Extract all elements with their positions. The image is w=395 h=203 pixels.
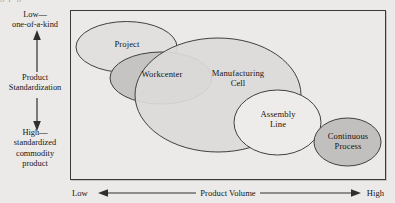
label-workcenter: Workcenter [126,69,198,79]
x-axis: Low High Product Volume [70,182,386,203]
y-axis-low-label: Low— one-of-a-kind [0,10,70,31]
x-axis-low-label: Low [70,188,90,198]
label-project: Project [97,39,157,49]
cropped-caption-text: g p g [0,0,22,2]
label-assembly-line: Assembly Line [249,109,307,129]
y-axis-title: Product Standardization [0,73,70,94]
label-continuous-process: Continuous Process [316,131,380,151]
y-axis-high-label: High— standardized commodity product [0,128,70,169]
y-axis: Low— one-of-a-kind Product Standardizati… [0,10,70,180]
plot-frame [70,10,386,180]
label-manufacturing-cell: Manufacturing Cell [200,68,276,88]
x-axis-high-label: High [365,188,386,198]
cropped-caption-remnant: g p g [0,0,395,4]
figure-canvas: g p g Low— one-of-a-kind Product Standar… [0,0,395,203]
